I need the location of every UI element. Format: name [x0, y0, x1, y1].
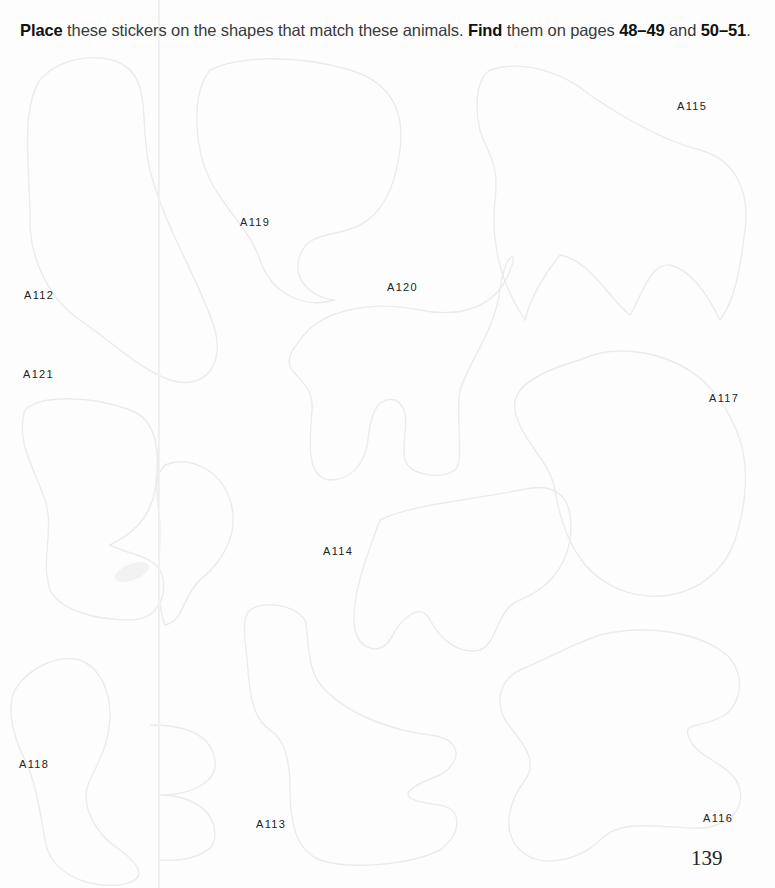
instruction-place: Place: [20, 21, 63, 39]
sticker-label-a121: A121: [23, 368, 54, 380]
sticker-page: Place these stickers on the shapes that …: [0, 0, 775, 888]
sticker-shape-a114b: [354, 487, 571, 651]
sticker-label-a119: A119: [240, 216, 270, 228]
sticker-label-a117: A117: [709, 392, 739, 404]
sticker-label-a120: A120: [387, 281, 418, 293]
instruction-pages-1: 48–49: [619, 21, 664, 39]
sticker-label-a118: A118: [19, 758, 49, 770]
sticker-shape-a119: [197, 59, 401, 303]
sticker-shape-a117: [515, 351, 746, 596]
sticker-shape-a114: [157, 462, 233, 625]
instruction-segment: .: [746, 21, 750, 39]
instruction-segment: them on pages: [502, 21, 619, 39]
instruction-segment: and: [665, 21, 701, 39]
instruction-find: Find: [468, 21, 502, 39]
sticker-shape-a116: [500, 630, 741, 861]
sticker-label-a116: A116: [703, 812, 733, 824]
sticker-label-a114: A114: [323, 545, 353, 557]
page-fold-line: [158, 0, 160, 888]
sticker-shape-a121: [22, 399, 163, 620]
sticker-label-a115: A115: [677, 100, 707, 112]
page-number: 139: [691, 846, 723, 871]
smudge-mark: [112, 558, 151, 585]
sticker-shape-a112: [28, 58, 218, 383]
instruction-pages-2: 50–51: [701, 21, 746, 39]
sticker-label-a113: A113: [256, 818, 286, 830]
instruction-segment: these stickers on the shapes that match …: [63, 21, 468, 39]
sticker-outline-shapes: [0, 0, 775, 888]
instruction-text: Place these stickers on the shapes that …: [20, 19, 751, 41]
sticker-shape-a118: [11, 659, 139, 886]
sticker-label-a112: A112: [24, 289, 54, 301]
